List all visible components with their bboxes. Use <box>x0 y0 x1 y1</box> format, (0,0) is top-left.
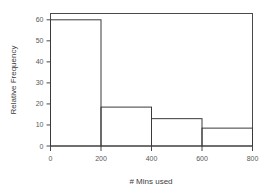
histogram-chart: 0102030405060 0200400600800 # Mins used … <box>0 0 266 194</box>
y-tick-label: 40 <box>36 58 44 65</box>
histogram-bars <box>51 20 253 146</box>
x-tick-label: 800 <box>247 155 259 162</box>
y-axis-title: Relative Frequency <box>9 46 18 115</box>
x-tick-label: 200 <box>95 155 107 162</box>
histogram-bar <box>152 119 203 146</box>
y-tick-label: 10 <box>36 121 44 128</box>
y-axis-ticks: 0102030405060 <box>36 16 51 149</box>
y-tick-label: 20 <box>36 100 44 107</box>
x-tick-label: 400 <box>146 155 158 162</box>
histogram-bar <box>202 128 253 146</box>
histogram-bar <box>51 20 102 146</box>
x-tick-label: 0 <box>49 155 53 162</box>
x-axis-title: # Mins used <box>129 177 172 186</box>
histogram-bar <box>101 107 152 146</box>
y-tick-label: 30 <box>36 79 44 86</box>
x-axis-ticks: 0200400600800 <box>49 146 259 162</box>
y-tick-label: 60 <box>36 16 44 23</box>
y-tick-label: 0 <box>40 143 44 150</box>
chart-canvas: 0102030405060 0200400600800 # Mins used … <box>0 0 266 194</box>
y-tick-label: 50 <box>36 37 44 44</box>
x-tick-label: 600 <box>196 155 208 162</box>
